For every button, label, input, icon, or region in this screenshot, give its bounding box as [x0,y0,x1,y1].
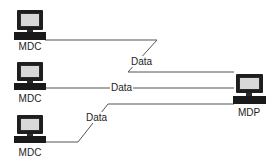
computer-icon [236,74,263,93]
edge-label-2: Data [110,82,133,93]
edge-label-1: Data [130,56,153,67]
node-mdp: MDP [0,0,276,164]
network-diagram: MDC MDC MDC MDP Data Data Data [0,0,276,164]
edge-label-3: Data [85,112,108,123]
node-label: MDP [229,107,269,118]
